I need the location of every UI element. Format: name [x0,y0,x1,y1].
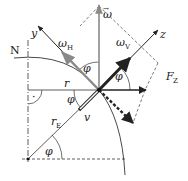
omega-h-label: ω [58,37,67,50]
angle-arc-bottom [52,135,62,159]
z-axis-label: z [159,28,166,41]
mass-point [97,88,101,92]
earth-radius-sub: E [56,122,61,130]
earth-center-point [26,157,29,160]
omega-h-sub: H [67,44,73,52]
projection-dash-3 [133,90,145,123]
y-axis-label: y [30,27,38,40]
omega-v-label: ω [116,36,125,49]
projection-dash-2 [80,6,99,26]
velocity-label: v [84,111,91,124]
earth-surface-arc [14,57,125,175]
force-component-dashed [99,90,133,123]
angle-label-mid: φ [67,93,75,106]
angle-arc-mid [74,90,81,108]
omega-v-sub: V [124,43,131,51]
angle-label-top: φ [83,62,91,75]
projection-dash-4 [145,63,158,90]
omega-label: ω [103,8,112,21]
radius-label: r [64,77,70,90]
coriolis-diagram: · N y z → ω ω H ω V F Z r r E v φ φ φ φ [0,0,188,181]
velocity-vector-inner [80,91,98,109]
angle-label-right: φ [115,70,123,83]
force-sub: Z [173,77,178,85]
north-label: N [10,44,20,57]
right-angle-dot: · [32,91,36,104]
angle-label-bottom: φ [45,145,53,158]
